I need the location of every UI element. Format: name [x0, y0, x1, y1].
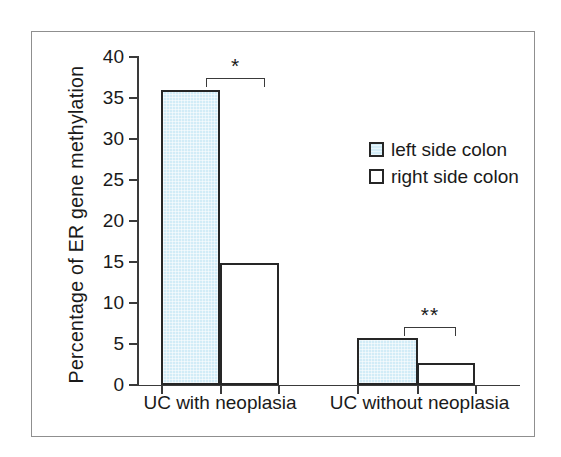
y-tick-label-5: 5 [84, 334, 124, 353]
x-category-label-uc-with-neoplasia: UC with neoplasia [120, 392, 320, 414]
y-tick-label-30: 30 [84, 129, 124, 148]
significance-mark-uc-with-neoplasia: * [206, 55, 265, 76]
legend-label-right-side-colon: right side colon [391, 167, 519, 186]
y-tick-label-25: 25 [84, 170, 124, 189]
y-tick-label-35: 35 [84, 88, 124, 107]
y-tick-label-20: 20 [84, 211, 124, 230]
significance-bracket-uc-with-neoplasia [206, 78, 265, 87]
bar-uc-with-neoplasia-left-side-colon [161, 90, 220, 386]
y-tick-label-10: 10 [84, 293, 124, 312]
legend: left side colon right side colon [369, 136, 519, 190]
plot-area: Percentage of ER gene methylation 40 35 … [0, 0, 561, 457]
y-tick-35 [129, 97, 137, 99]
y-tick-5 [129, 343, 137, 345]
legend-swatch-filled-icon [369, 142, 384, 157]
legend-swatch-empty-icon [369, 169, 384, 184]
y-tick-label-40: 40 [84, 47, 124, 66]
y-tick-20 [129, 220, 137, 222]
bar-uc-with-neoplasia-right-side-colon [220, 263, 279, 386]
y-tick-label-15: 15 [84, 252, 124, 271]
y-tick-0 [129, 384, 137, 386]
y-tick-15 [129, 261, 137, 263]
bar-uc-without-neoplasia-right-side-colon [417, 363, 475, 386]
y-tick-25 [129, 179, 137, 181]
legend-label-left-side-colon: left side colon [391, 140, 507, 159]
x-category-label-uc-without-neoplasia: UC without neoplasia [312, 392, 527, 414]
figure-canvas: Percentage of ER gene methylation 40 35 … [0, 0, 561, 457]
y-tick-30 [129, 138, 137, 140]
y-axis-line [137, 56, 139, 386]
significance-mark-uc-without-neoplasia: ** [404, 304, 456, 325]
legend-item-left-side-colon: left side colon [369, 136, 519, 163]
significance-bracket-uc-without-neoplasia [404, 327, 456, 336]
bar-uc-without-neoplasia-left-side-colon [357, 338, 418, 385]
y-tick-label-0: 0 [84, 375, 124, 394]
y-tick-40 [129, 56, 137, 58]
y-tick-10 [129, 302, 137, 304]
legend-item-right-side-colon: right side colon [369, 163, 519, 190]
